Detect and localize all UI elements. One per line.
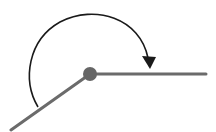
vertex-point (83, 67, 97, 81)
lower-left-ray (11, 74, 90, 130)
arrowhead-icon (142, 56, 156, 69)
angle-diagram (0, 0, 216, 132)
angle-figure (0, 0, 216, 132)
rotation-arc (29, 14, 148, 107)
